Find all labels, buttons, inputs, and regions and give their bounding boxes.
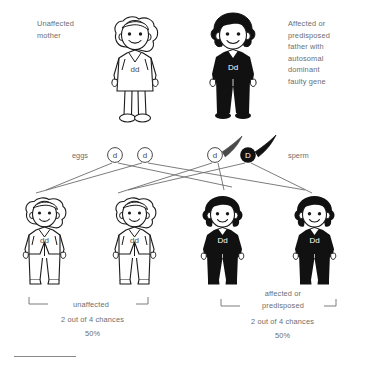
inheritance-diagram: Unaffected mother Affected or predispose… <box>0 0 365 373</box>
figure-mother: dd <box>112 17 158 122</box>
figure-father: Dd <box>210 13 256 119</box>
child-3-genotype: Dd <box>309 236 319 245</box>
bracket-affected <box>221 299 336 306</box>
child-0: dd <box>23 198 66 284</box>
child-2-genotype: Dd <box>217 236 227 245</box>
child-2: Dd <box>201 196 244 285</box>
father-genotype: Dd <box>228 63 238 72</box>
egg-1-allele: d <box>143 151 147 160</box>
mother-genotype: dd <box>131 65 140 74</box>
sperm-1: D <box>240 135 276 163</box>
egg-1: d <box>138 148 153 163</box>
diagram-canvas: dd Dd d d d D <box>0 0 365 373</box>
child-3: Dd <box>293 196 336 285</box>
egg-0: d <box>108 148 123 163</box>
child-1-genotype: dd <box>130 236 139 245</box>
cross-lines <box>36 163 312 193</box>
child-1: dd <box>113 198 156 284</box>
egg-0-allele: d <box>113 151 117 160</box>
child-0-genotype: dd <box>40 236 49 245</box>
sperm-0-allele: d <box>213 151 217 160</box>
sperm-0: d <box>208 136 242 162</box>
bracket-unaffected <box>29 297 148 304</box>
sperm-1-allele: D <box>245 151 251 160</box>
